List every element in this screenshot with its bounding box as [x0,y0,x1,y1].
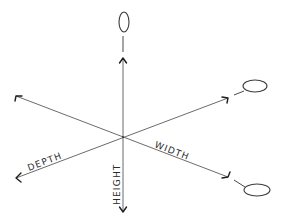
axes-diagram: HEIGHT WIDTH DEPTH [0,0,287,221]
depth-rotation-marker-icon [243,80,267,92]
height-label: HEIGHT [112,163,122,205]
width-rotation-marker-icon [244,184,270,196]
depth-rotation-leader [234,91,244,95]
height-axis: HEIGHT [112,12,129,212]
width-rotation-leader [234,180,245,187]
width-label: WIDTH [153,140,191,163]
height-rotation-marker-icon [119,12,129,32]
depth-label: DEPTH [26,151,63,173]
origin-point [122,136,124,138]
width-axis: WIDTH [15,96,270,196]
depth-axis: DEPTH [16,80,267,182]
